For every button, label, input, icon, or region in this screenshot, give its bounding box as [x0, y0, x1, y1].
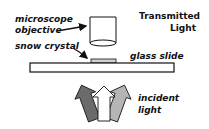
incident-label-line2: light [138, 106, 161, 115]
objective-label-line1: microscope [15, 15, 73, 24]
incident-light-arrows-icon [71, 81, 135, 123]
microscope-objective-icon [90, 17, 116, 46]
title-line1: Transmitted [139, 12, 200, 21]
objective-label-line2: objective [15, 26, 62, 35]
incident-label-line1: incident [138, 94, 179, 103]
crystal-label: snow crystal [15, 42, 79, 51]
glass-slide-icon [30, 63, 174, 72]
transmitted-light-diagram: microscope objective Transmitted Light s… [0, 0, 209, 129]
slide-label: glass slide [130, 52, 184, 61]
title-line2: Light [170, 24, 196, 33]
